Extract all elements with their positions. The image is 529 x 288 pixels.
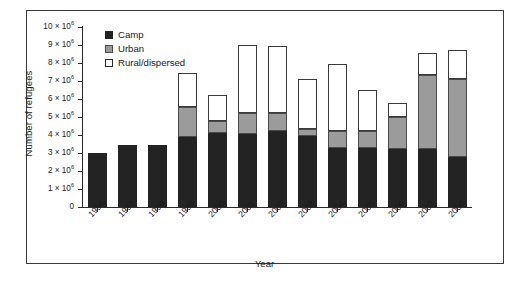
y-tick-mark	[78, 99, 82, 100]
y-axis-tick-labels: 01 × 1062 × 1063 × 1064 × 1065 × 1066 × …	[26, 0, 74, 288]
x-tick-mark	[367, 208, 368, 212]
y-tick-label: 8 × 106	[26, 59, 74, 67]
bar-segment-rural	[268, 46, 287, 113]
bar-segment-rural	[238, 45, 257, 113]
bar-segment-rural	[358, 90, 377, 131]
bar-segment-camp	[388, 149, 407, 207]
x-tick-mark	[427, 208, 428, 212]
y-tick-label: 1 × 106	[26, 185, 74, 193]
y-tick-label: 2 × 106	[26, 167, 74, 175]
bar-segment-urban	[238, 113, 257, 134]
legend-item-rural: Rural/dispersed	[105, 56, 185, 69]
y-tick-label: 6 × 106	[26, 95, 74, 103]
bar-2002	[268, 46, 287, 207]
y-tick-label: 9 × 106	[26, 41, 74, 49]
x-tick-mark	[217, 208, 218, 212]
bar-segment-camp	[298, 136, 317, 207]
legend-label-camp: Camp	[118, 28, 144, 41]
bar-segment-rural	[418, 53, 437, 75]
bar-1998	[148, 145, 167, 207]
x-tick-mark	[307, 208, 308, 212]
bar-segment-camp	[178, 137, 197, 207]
bar-segment-camp	[358, 148, 377, 207]
legend-item-urban: Urban	[105, 42, 185, 55]
bar-2000	[208, 95, 227, 207]
bar-2005	[358, 90, 377, 207]
x-tick-mark	[397, 208, 398, 212]
y-tick-mark	[78, 27, 82, 28]
x-tick-mark	[127, 208, 128, 212]
chart-legend: Camp Urban Rural/dispersed	[105, 28, 185, 70]
x-tick-mark	[247, 208, 248, 212]
x-tick-mark	[187, 208, 188, 212]
y-tick-mark	[78, 135, 82, 136]
bar-segment-urban	[298, 129, 317, 136]
bar-2001	[238, 45, 257, 207]
bar-segment-urban	[178, 107, 197, 137]
y-tick-mark	[78, 189, 82, 190]
legend-label-urban: Urban	[118, 42, 144, 55]
legend-swatch-urban	[105, 45, 113, 53]
bar-1996	[88, 153, 107, 207]
legend-swatch-rural	[105, 59, 113, 67]
bar-2004	[328, 64, 347, 207]
x-tick-mark	[277, 208, 278, 212]
bar-segment-rural	[448, 50, 467, 79]
bar-2007	[418, 53, 437, 207]
bar-segment-camp	[208, 133, 227, 207]
chart-figure: Number of refugees 01 × 1062 × 1063 × 10…	[0, 0, 529, 288]
bar-segment-rural	[298, 79, 317, 129]
y-tick-label: 10 × 106	[26, 23, 74, 31]
y-tick-mark	[78, 153, 82, 154]
y-tick-mark	[78, 45, 82, 46]
bar-segment-camp	[148, 145, 167, 207]
y-tick-mark	[78, 207, 82, 208]
bar-segment-urban	[448, 79, 467, 156]
y-tick-label: 0	[26, 203, 74, 211]
y-tick-label: 5 × 106	[26, 113, 74, 121]
y-tick-mark	[78, 171, 82, 172]
bar-segment-rural	[178, 73, 197, 107]
bar-segment-camp	[268, 131, 287, 207]
y-tick-label: 3 × 106	[26, 149, 74, 157]
y-tick-mark	[78, 81, 82, 82]
bar-segment-urban	[418, 75, 437, 150]
bar-2008	[448, 50, 467, 207]
bar-segment-rural	[208, 95, 227, 120]
x-tick-mark	[157, 208, 158, 212]
bar-segment-camp	[88, 153, 107, 207]
x-axis-title: Year	[0, 258, 529, 269]
bar-segment-camp	[328, 148, 347, 207]
legend-item-camp: Camp	[105, 28, 185, 41]
bar-2006	[388, 103, 407, 207]
bar-segment-urban	[268, 113, 287, 132]
bar-segment-urban	[208, 121, 227, 134]
y-tick-label: 4 × 106	[26, 131, 74, 139]
bar-segment-rural	[328, 64, 347, 131]
bar-1997	[118, 145, 137, 207]
bar-segment-camp	[118, 145, 137, 207]
bar-2003	[298, 79, 317, 207]
x-tick-mark	[457, 208, 458, 212]
x-tick-mark	[337, 208, 338, 212]
bar-segment-urban	[388, 117, 407, 149]
bar-segment-camp	[418, 149, 437, 207]
legend-swatch-camp	[105, 31, 113, 39]
y-tick-mark	[78, 117, 82, 118]
bar-1999	[178, 73, 197, 207]
y-tick-mark	[78, 63, 82, 64]
y-tick-label: 7 × 106	[26, 77, 74, 85]
bar-segment-urban	[358, 131, 377, 147]
bar-segment-camp	[238, 134, 257, 207]
bar-segment-rural	[388, 103, 407, 117]
bar-segment-urban	[328, 131, 347, 148]
legend-label-rural: Rural/dispersed	[118, 56, 185, 69]
x-tick-mark	[97, 208, 98, 212]
